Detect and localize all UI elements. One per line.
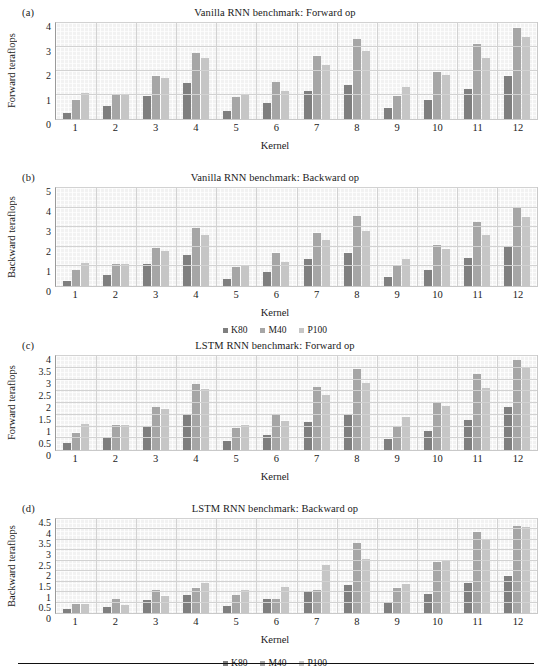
legend-swatch-m40-icon [260, 328, 265, 333]
bar-m40 [313, 387, 321, 450]
bar-p100 [241, 425, 249, 450]
bar-k80 [223, 441, 231, 450]
bar-group [457, 356, 497, 450]
bar-group [256, 188, 296, 286]
y-axis-ticks-a: 01234 [0, 22, 55, 120]
x-tick-label: 1 [55, 616, 95, 627]
chart-panel-c: (c) LSTM RNN benchmark: Forward op Forwa… [0, 333, 550, 496]
bar-group [337, 356, 377, 450]
x-tick-label: 9 [377, 616, 417, 627]
bar-p100 [442, 406, 450, 450]
bar-k80 [183, 83, 191, 119]
bar-m40 [473, 532, 481, 613]
x-tick-label: 5 [216, 616, 256, 627]
bar-m40 [393, 265, 401, 286]
bar-p100 [442, 560, 450, 613]
bar-k80 [63, 281, 71, 286]
bar-p100 [442, 75, 450, 119]
y-axis-ticks-d: 00.511.522.533.544.5 [0, 518, 55, 614]
bar-p100 [81, 263, 89, 286]
bar-k80 [344, 85, 352, 119]
bar-m40 [353, 369, 361, 450]
bar-group [296, 356, 336, 450]
bar-m40 [112, 264, 120, 286]
bar-m40 [72, 433, 80, 450]
bar-m40 [192, 588, 200, 613]
x-tick-label: 5 [216, 122, 256, 133]
bar-m40 [313, 56, 321, 119]
bar-group [457, 519, 497, 613]
bar-m40 [433, 403, 441, 450]
bar-m40 [513, 208, 521, 286]
bar-group [56, 356, 96, 450]
bar-p100 [482, 388, 490, 450]
bar-m40 [513, 28, 521, 119]
bar-k80 [504, 76, 512, 119]
bar-m40 [72, 100, 80, 119]
bar-m40 [112, 599, 120, 613]
bar-k80 [384, 277, 392, 286]
bar-p100 [281, 421, 289, 450]
bar-m40 [393, 96, 401, 119]
x-tick-label: 6 [256, 453, 296, 464]
x-axis-label-d: Kernel [0, 634, 550, 645]
x-tick-label: 12 [498, 289, 538, 300]
bar-m40 [313, 233, 321, 286]
bar-p100 [281, 587, 289, 613]
x-tick-label: 6 [256, 289, 296, 300]
x-tick-label: 7 [297, 122, 337, 133]
bar-k80 [103, 275, 111, 286]
chart-title-b: Vanilla RNN benchmark: Backward op [0, 172, 550, 183]
bar-m40 [232, 595, 240, 613]
x-tick-label: 10 [417, 453, 457, 464]
bar-p100 [201, 583, 209, 613]
bar-p100 [201, 389, 209, 450]
bar-p100 [402, 417, 410, 450]
bar-k80 [464, 89, 472, 119]
bar-group [216, 356, 256, 450]
bar-k80 [143, 96, 151, 119]
bar-group [377, 356, 417, 450]
bar-p100 [362, 51, 370, 119]
x-tick-label: 8 [337, 289, 377, 300]
x-tick-label: 11 [458, 453, 498, 464]
bar-p100 [322, 565, 330, 613]
bar-group [56, 519, 96, 613]
bar-p100 [81, 424, 89, 450]
bar-k80 [263, 272, 271, 286]
bar-k80 [344, 585, 352, 613]
x-tick-label: 2 [95, 616, 135, 627]
bar-group [96, 356, 136, 450]
bar-p100 [362, 231, 370, 286]
bar-m40 [72, 270, 80, 286]
bar-group [296, 23, 336, 119]
bar-p100 [322, 240, 330, 286]
bar-p100 [161, 78, 169, 119]
bar-group [296, 519, 336, 613]
bar-k80 [384, 108, 392, 119]
bar-group [216, 188, 256, 286]
bar-group [417, 23, 457, 119]
bar-k80 [504, 407, 512, 450]
bar-k80 [464, 583, 472, 613]
x-tick-label: 11 [458, 616, 498, 627]
bar-k80 [103, 607, 111, 613]
bar-p100 [281, 262, 289, 286]
bar-group [377, 23, 417, 119]
bar-p100 [322, 395, 330, 450]
chart-title-d: LSTM RNN benchmark: Backward op [0, 503, 550, 514]
bar-m40 [152, 590, 160, 613]
x-axis-label-a: Kernel [0, 140, 550, 151]
bar-p100 [322, 65, 330, 119]
bar-m40 [272, 599, 280, 613]
bar-m40 [473, 374, 481, 450]
chart-title-c: LSTM RNN benchmark: Forward op [0, 340, 550, 351]
bar-k80 [263, 599, 271, 613]
bar-k80 [304, 422, 312, 450]
bar-k80 [183, 255, 191, 286]
bar-k80 [183, 414, 191, 450]
bar-m40 [272, 414, 280, 450]
bar-m40 [232, 97, 240, 119]
bar-m40 [513, 360, 521, 450]
bar-m40 [192, 53, 200, 119]
